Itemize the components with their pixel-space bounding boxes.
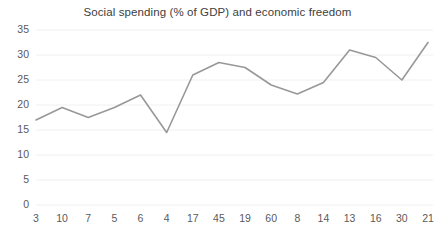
y-axis-tick-label: 5: [3, 174, 29, 185]
x-axis-tick-label: 16: [364, 213, 388, 224]
x-axis-tick-label: 7: [76, 213, 100, 224]
y-axis-tick-label: 0: [3, 199, 29, 210]
y-axis-tick-label: 25: [3, 74, 29, 85]
x-axis-tick-label: 45: [207, 213, 231, 224]
x-axis-tick-label: 4: [155, 213, 179, 224]
x-axis-tick-label: 13: [338, 213, 362, 224]
x-axis-tick-label: 19: [233, 213, 257, 224]
y-axis-tick-label: 20: [3, 99, 29, 110]
y-axis-tick-label: 35: [3, 24, 29, 35]
x-axis-tick-label: 5: [102, 213, 126, 224]
x-axis-tick-label: 8: [285, 213, 309, 224]
data-series-line: [36, 43, 428, 133]
x-axis-tick-label: 17: [181, 213, 205, 224]
x-axis-tick-label: 14: [311, 213, 335, 224]
x-axis-tick-label: 6: [129, 213, 153, 224]
y-axis-tick-label: 15: [3, 124, 29, 135]
line-chart-plot-area: [0, 0, 435, 239]
x-axis-tick-label: 60: [259, 213, 283, 224]
x-axis-tick-label: 3: [24, 213, 48, 224]
x-axis-tick-label: 30: [390, 213, 414, 224]
x-axis-tick-label: 10: [50, 213, 74, 224]
y-axis-tick-label: 10: [3, 149, 29, 160]
y-axis-tick-label: 30: [3, 49, 29, 60]
x-axis-tick-label: 21: [416, 213, 435, 224]
chart-container: Social spending (% of GDP) and economic …: [0, 0, 435, 239]
